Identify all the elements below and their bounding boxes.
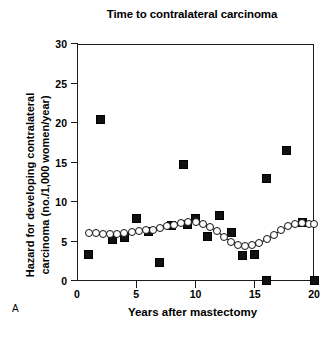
panel-label: A <box>12 303 19 314</box>
hazard-curve-path <box>89 222 314 246</box>
figure-panel: Time to contralateral carcinoma Hazard f… <box>0 0 331 337</box>
smoothed-hazard-line <box>0 0 331 337</box>
x-axis-label: Years after mastectomy <box>60 306 325 318</box>
